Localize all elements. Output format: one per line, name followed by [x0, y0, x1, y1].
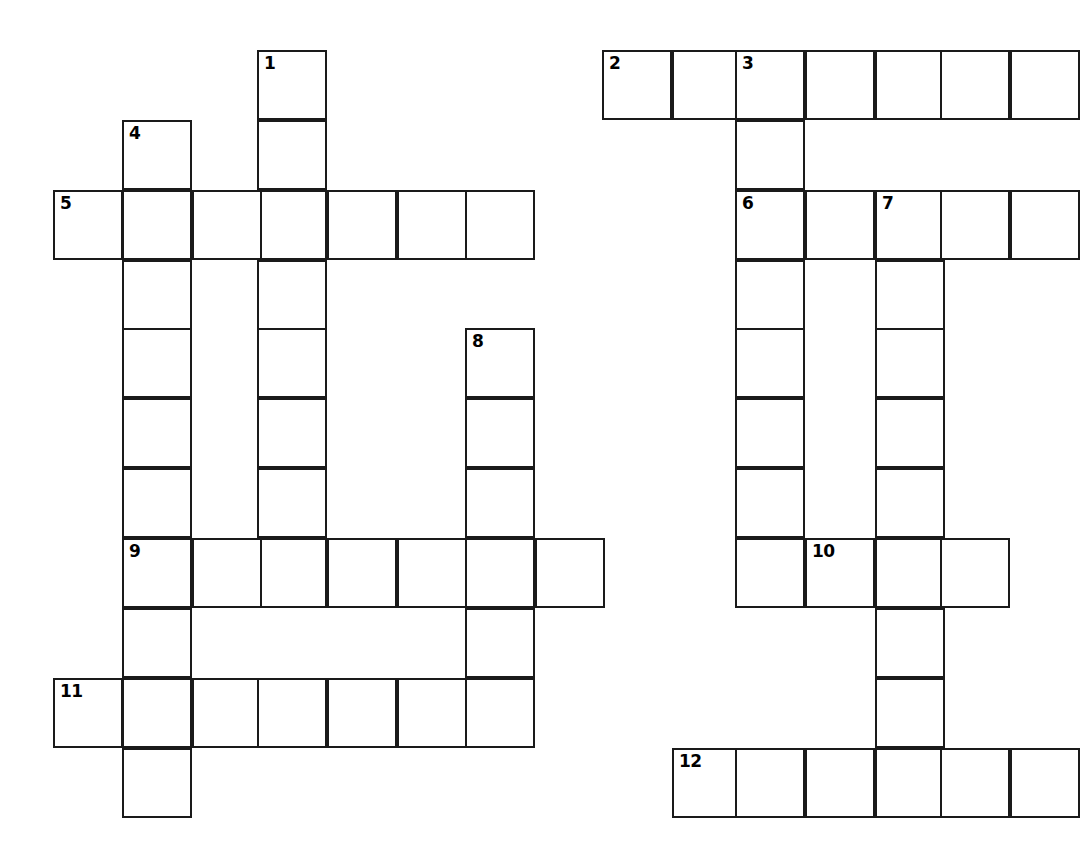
- crossword-cell[interactable]: [122, 748, 192, 818]
- crossword-cell[interactable]: [875, 260, 945, 330]
- crossword-cell[interactable]: [1010, 190, 1080, 260]
- crossword-cell[interactable]: [257, 678, 327, 748]
- crossword-cell[interactable]: [465, 468, 535, 538]
- crossword-cell[interactable]: 8: [465, 328, 535, 398]
- crossword-cell[interactable]: 11: [53, 678, 123, 748]
- crossword-cell[interactable]: 12: [672, 748, 742, 818]
- crossword-cell[interactable]: [1010, 748, 1080, 818]
- crossword-cell[interactable]: [735, 468, 805, 538]
- crossword-cell[interactable]: [192, 678, 262, 748]
- crossword-cell[interactable]: [465, 398, 535, 468]
- crossword-cell[interactable]: [257, 190, 327, 260]
- crossword-cell[interactable]: [1010, 50, 1080, 120]
- crossword-cell[interactable]: [122, 468, 192, 538]
- crossword-cell[interactable]: [122, 398, 192, 468]
- crossword-cell[interactable]: [735, 120, 805, 190]
- crossword-cell[interactable]: [122, 260, 192, 330]
- crossword-clue-number: 3: [742, 54, 753, 74]
- crossword-cell[interactable]: [122, 190, 192, 260]
- crossword-cell[interactable]: [192, 538, 262, 608]
- crossword-cell[interactable]: [122, 328, 192, 398]
- crossword-cell[interactable]: 2: [602, 50, 672, 120]
- crossword-clue-number: 1: [264, 54, 275, 74]
- crossword-cell[interactable]: [735, 538, 805, 608]
- crossword-cell[interactable]: 7: [875, 190, 945, 260]
- crossword-cell[interactable]: 6: [735, 190, 805, 260]
- crossword-cell[interactable]: [465, 190, 535, 260]
- crossword-cell[interactable]: [465, 608, 535, 678]
- crossword-cell[interactable]: [257, 328, 327, 398]
- crossword-clue-number: 12: [679, 752, 702, 772]
- crossword-cell[interactable]: [397, 538, 467, 608]
- crossword-cell[interactable]: [735, 748, 805, 818]
- crossword-clue-number: 7: [882, 194, 893, 214]
- crossword-cell[interactable]: [122, 678, 192, 748]
- crossword-cell[interactable]: [940, 748, 1010, 818]
- crossword-clue-number: 2: [609, 54, 620, 74]
- crossword-cell[interactable]: [875, 398, 945, 468]
- crossword-cell[interactable]: [257, 398, 327, 468]
- crossword-cell[interactable]: [672, 50, 742, 120]
- crossword-cell[interactable]: [875, 678, 945, 748]
- crossword-cell[interactable]: [327, 678, 397, 748]
- crossword-cell[interactable]: [257, 468, 327, 538]
- crossword-clue-number: 9: [129, 542, 140, 562]
- crossword-cell[interactable]: [940, 50, 1010, 120]
- crossword-clue-number: 5: [60, 194, 71, 214]
- crossword-cell[interactable]: [805, 748, 875, 818]
- crossword-cell[interactable]: [397, 678, 467, 748]
- crossword-cell[interactable]: [735, 328, 805, 398]
- crossword-clue-number: 10: [812, 542, 835, 562]
- crossword-cell[interactable]: 5: [53, 190, 123, 260]
- crossword-cell[interactable]: [397, 190, 467, 260]
- crossword-cell[interactable]: 3: [735, 50, 805, 120]
- crossword-cell[interactable]: [875, 608, 945, 678]
- crossword-cell[interactable]: [875, 468, 945, 538]
- crossword-cell[interactable]: [875, 50, 945, 120]
- crossword-cell[interactable]: 1: [257, 50, 327, 120]
- crossword-cell[interactable]: [875, 538, 945, 608]
- crossword-cell[interactable]: [805, 190, 875, 260]
- crossword-cell[interactable]: [875, 328, 945, 398]
- crossword-cell[interactable]: [465, 678, 535, 748]
- crossword-cell[interactable]: [327, 538, 397, 608]
- crossword-cell[interactable]: [465, 538, 535, 608]
- crossword-cell[interactable]: [875, 748, 945, 818]
- crossword-cell[interactable]: [735, 398, 805, 468]
- crossword-cell[interactable]: [940, 190, 1010, 260]
- crossword-cell[interactable]: [122, 608, 192, 678]
- crossword-clue-number: 11: [60, 682, 83, 702]
- crossword-cell[interactable]: 10: [805, 538, 875, 608]
- crossword-cell[interactable]: [257, 260, 327, 330]
- crossword-clue-number: 4: [129, 124, 140, 144]
- crossword-cell[interactable]: [535, 538, 605, 608]
- crossword-cell[interactable]: [192, 190, 262, 260]
- crossword-cell[interactable]: [940, 538, 1010, 608]
- crossword-clue-number: 8: [472, 332, 483, 352]
- crossword-cell[interactable]: [327, 190, 397, 260]
- crossword-cell[interactable]: [805, 50, 875, 120]
- crossword-cell[interactable]: [735, 260, 805, 330]
- crossword-cell[interactable]: 4: [122, 120, 192, 190]
- crossword-clue-number: 6: [742, 194, 753, 214]
- crossword-cell[interactable]: 9: [122, 538, 192, 608]
- crossword-cell[interactable]: [257, 538, 327, 608]
- crossword-cell[interactable]: [257, 120, 327, 190]
